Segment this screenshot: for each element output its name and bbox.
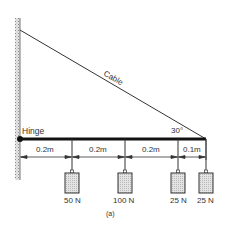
dimension-label-3: 0.2m [142,145,160,154]
figure-caption: (a) [106,210,115,218]
cantilever-beam-diagram: Hinge Cable 30° 0.2m 0.2m 0.2m 0.1m 50 N… [0,0,227,225]
dimension-label-2: 0.2m [89,145,107,154]
hinge-icon [17,136,23,142]
cable [20,30,206,139]
weight-label-3: 25 N [170,196,187,205]
dimension-label-1: 0.2m [36,145,54,154]
angle-label: 30° [171,126,183,135]
dimension-label-4: 0.1m [183,145,201,154]
hinge-label: Hinge [22,126,44,136]
weight-label-2: 100 N [113,196,135,205]
weight-2 [118,139,132,193]
wall [15,18,20,180]
weight-label-4: 25 N [197,196,214,205]
weight-label-1: 50 N [64,196,81,205]
weight-1 [65,139,79,193]
weight-4 [199,139,213,193]
